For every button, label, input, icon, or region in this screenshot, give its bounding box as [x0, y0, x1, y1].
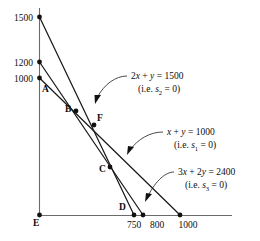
constraint-line-2x-y-1500 [40, 17, 135, 215]
y-tick-label-1000: 1000 [14, 74, 33, 84]
ann2-plus: + [171, 127, 181, 137]
vertex-label-b: B [65, 104, 72, 114]
x-tick-dot-800 [141, 213, 146, 218]
annotation-x-y-1000-line2: (i.e. s1 = 0) [174, 140, 216, 152]
vertex-label-c: C [99, 164, 106, 174]
leader-arrow-2x-y-1500 [95, 95, 102, 104]
vertex-dot-e [37, 213, 42, 218]
leader-arrow-3x-2y-2400 [145, 193, 152, 202]
annotation-2x-y-1500-line1: 2x + y = 1500 [131, 71, 184, 81]
ann2-ie: (i.e. [174, 140, 191, 151]
leader-arrow-x-y-1000 [127, 146, 134, 155]
x-tick-label-800: 800 [150, 220, 165, 230]
y-tick-dot-1500 [37, 15, 42, 20]
ann1-rhs: = 1500 [154, 71, 183, 81]
annotation-2x-y-1500-line2: (i.e. s2 = 0) [138, 84, 180, 96]
leader-line-x-y-1000 [130, 132, 163, 150]
leader-line-3x-2y-2400 [148, 172, 174, 196]
x-tick-dot-750 [132, 213, 137, 218]
ann1-slack-eq: = 0) [162, 84, 180, 95]
ann2-rhs: = 1000 [186, 127, 215, 137]
ann3-plus: + 2 [187, 167, 202, 177]
y-tick-label-1500: 1500 [14, 13, 33, 23]
x-tick-label-1000: 1000 [179, 220, 198, 230]
vertex-label-f: F [97, 113, 103, 123]
ann3-slack-eq: = 0) [209, 180, 227, 191]
ann2-slack-eq: = 0) [198, 140, 216, 151]
vertex-label-d: D [119, 202, 126, 212]
ann3-ie: (i.e. [185, 180, 202, 191]
ann1-ie: (i.e. [138, 84, 155, 95]
ann3-rhs: = 2400 [206, 167, 235, 177]
vertex-dot-b [74, 109, 79, 114]
annotation-3x-2y-2400-line1: 3x + 2y = 2400 [178, 167, 235, 177]
x-tick-dot-1000 [178, 213, 183, 218]
vertex-dot-c [108, 165, 113, 170]
constraint-line-3x-2y-2400 [40, 62, 144, 215]
vertex-label-e: E [33, 218, 39, 228]
x-tick-label-750: 750 [127, 220, 142, 230]
vertex-label-a: A [42, 84, 49, 94]
annotation-3x-2y-2400-line2: (i.e. s3 = 0) [185, 180, 227, 192]
constraint-line-x-y-1000 [40, 78, 181, 215]
ann1-plus: + [140, 71, 150, 81]
leader-line-2x-y-1500 [97, 76, 127, 98]
y-tick-dot-1000 [37, 76, 42, 81]
annotation-x-y-1000-line1: x + y = 1000 [166, 127, 215, 137]
y-tick-dot-1200 [37, 60, 42, 65]
feasible-region-graph: 1500 1200 1000 750 800 1000 A B F C D E … [0, 0, 260, 241]
vertex-dot-f [92, 123, 97, 128]
y-tick-label-1200: 1200 [14, 58, 33, 68]
